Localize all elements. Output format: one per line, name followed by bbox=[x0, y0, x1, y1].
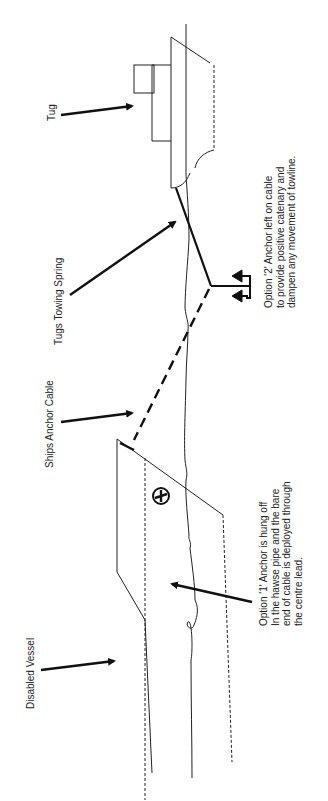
note-option-2-line-2: to provide positive catenary and bbox=[275, 156, 287, 308]
note-option-1: Option '1' Anchor is hung off In the haw… bbox=[258, 481, 304, 626]
tug-arrow bbox=[61, 106, 132, 115]
label-disabled-vessel: Disabled Vessel bbox=[25, 638, 37, 709]
towing-spring-arrow bbox=[70, 222, 175, 295]
note-option-2-line-3: dampen any movement of towline. bbox=[286, 156, 298, 308]
disabled-vessel-arrow bbox=[41, 661, 114, 670]
ships-anchor-cable-line bbox=[134, 289, 209, 440]
anchor-cable-arrow bbox=[61, 413, 132, 422]
label-ships-anchor-cable: Ships Anchor Cable bbox=[44, 380, 56, 468]
diagram-canvas: Tug Tugs Towing Spring Ships Anchor Cabl… bbox=[0, 0, 328, 801]
note-option-1-line-2: In the hawse pipe and the bare bbox=[270, 481, 282, 626]
note-option-2: Option '2' Anchor left on cable to provi… bbox=[263, 156, 298, 308]
label-tugs-towing-spring: Tugs Towing Spring bbox=[53, 258, 65, 345]
callout-arrows bbox=[41, 106, 252, 670]
note-option-1-line-4: the centre lead. bbox=[293, 481, 305, 626]
anchor-option-1-icon bbox=[153, 488, 169, 504]
option-1-arrow bbox=[172, 584, 252, 602]
tug-drawing bbox=[134, 37, 214, 188]
disabled-vessel-drawing bbox=[117, 439, 232, 800]
note-option-1-line-3: end of cable is deployed through bbox=[281, 481, 293, 626]
note-option-2-line-1: Option '2' Anchor left on cable bbox=[263, 156, 275, 308]
label-tug: Tug bbox=[46, 104, 58, 121]
waterline bbox=[185, 24, 198, 778]
note-option-1-line-1: Option '1' Anchor is hung off bbox=[258, 481, 270, 626]
